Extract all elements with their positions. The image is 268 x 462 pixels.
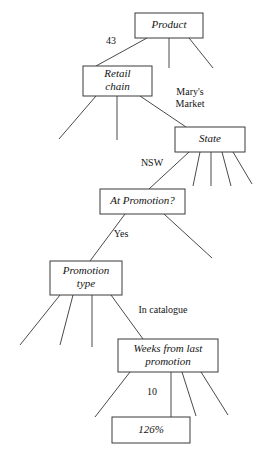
tree-edge-state-branch-4 [222,152,231,186]
edge-label-text-label-marys-market: Mary's [176,86,203,97]
edge-label-label-10: 10 [147,386,157,397]
node-label-promotion-type: type [77,277,95,289]
node-label-at-promotion: At Promotion? [109,194,175,206]
edge-label-text-label-marys-market: Market [176,98,205,109]
tree-node-product[interactable]: Product [135,13,203,38]
node-label-promotion-type: Promotion [62,264,110,276]
node-label-weeks-from-last-promotion: Weeks from last [134,342,204,354]
decision-tree-diagram: ProductRetailchainStateAt Promotion?Prom… [0,0,268,462]
node-label-weeks-from-last-promotion: promotion [144,355,191,367]
edge-label-label-nsw: NSW [141,157,164,168]
node-label-retail-chain: chain [105,80,130,92]
tree-node-weeks-from-last-promotion[interactable]: Weeks from lastpromotion [118,339,218,372]
tree-node-at-promotion[interactable]: At Promotion? [100,189,185,214]
edge-label-text-label-yes: Yes [114,228,129,239]
edge-label-text-label-43: 43 [106,35,116,46]
tree-edge-weeks-branch-left [95,372,130,417]
tree-node-state[interactable]: State [175,127,245,152]
tree-node-result[interactable]: 126% [112,417,190,443]
edge-label-label-yes: Yes [114,228,129,239]
nodes-layer: ProductRetailchainStateAt Promotion?Prom… [50,13,245,443]
edge-label-text-label-10: 10 [147,386,157,397]
tree-edge-weeks-branch-4 [201,372,228,415]
tree-edge-promotion-type-branch-2 [60,295,73,345]
tree-edge-promotion-type-branch-1 [20,295,60,345]
tree-edge-product-branch-right [189,38,213,68]
edge-label-label-in-catalogue: In catalogue [138,304,188,315]
tree-edge-state-branch-2 [193,152,200,186]
edge-label-label-marys-market: Mary'sMarket [176,86,205,109]
node-label-result: 126% [138,423,164,435]
tree-node-retail-chain[interactable]: Retailchain [83,66,152,96]
edge-label-text-label-in-catalogue: In catalogue [138,304,188,315]
edge-label-label-43: 43 [106,35,116,46]
tree-edge-product-to-retail-chain [96,38,147,66]
tree-edge-at-promotion-branch-right [164,214,212,258]
edge-label-text-label-nsw: NSW [141,157,164,168]
node-label-product: Product [150,18,187,30]
node-label-retail-chain: Retail [103,67,130,79]
tree-edge-weeks-branch-3 [182,372,196,416]
tree-edge-state-branch-5 [233,152,252,184]
tree-edge-promotion-type-to-weeks [111,295,143,339]
node-label-state: State [199,132,221,144]
tree-svg-canvas: ProductRetailchainStateAt Promotion?Prom… [0,0,268,462]
tree-node-promotion-type[interactable]: Promotiontype [50,261,122,295]
tree-edge-retail-chain-branch-left [59,96,96,139]
